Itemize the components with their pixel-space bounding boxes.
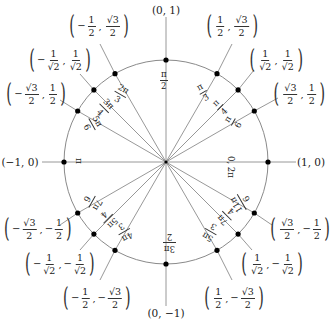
denominator: 2 xyxy=(56,230,62,241)
parenthesis: ( xyxy=(69,12,75,38)
sign: − xyxy=(64,259,72,269)
point-300 xyxy=(214,248,219,253)
numerator: 1 xyxy=(313,218,321,230)
denominator: 2 xyxy=(314,230,320,241)
denominator: 2 xyxy=(284,230,290,241)
denominator: √2 xyxy=(70,61,82,72)
numerator: √3 xyxy=(22,218,36,230)
comma: , xyxy=(297,225,300,235)
numerator: 1 xyxy=(45,253,53,265)
coord-label-300: ( 12 , − √32 ) xyxy=(202,286,266,310)
parenthesis: ( xyxy=(241,250,247,276)
fraction: √32 xyxy=(108,287,122,309)
parenthesis: ) xyxy=(319,80,325,106)
denominator: 2 xyxy=(287,95,293,106)
axis-label-left: (−1, 0) xyxy=(1,156,38,168)
numerator: 1 xyxy=(214,287,222,299)
comma: , xyxy=(58,260,61,270)
point-315 xyxy=(236,232,241,237)
angle-150-den: 6 xyxy=(82,122,93,131)
parenthesis: ( xyxy=(4,215,10,241)
parenthesis: ) xyxy=(60,80,66,106)
sign: − xyxy=(77,21,85,31)
numerator: √3 xyxy=(235,15,249,27)
fraction: 12 xyxy=(81,287,89,309)
fraction: 1√2 xyxy=(251,253,263,275)
sign: − xyxy=(14,89,22,99)
comma: , xyxy=(300,90,303,100)
sign: − xyxy=(271,259,279,269)
axis-label-top: (0, 1) xyxy=(152,4,180,16)
numerator: √3 xyxy=(106,15,120,27)
parenthesis: ( xyxy=(270,215,276,241)
point-225 xyxy=(91,232,96,237)
parenthesis: ) xyxy=(66,215,72,241)
numerator: 1 xyxy=(49,83,57,95)
angle-330-den: 6 xyxy=(240,195,251,204)
coord-label-225: ( − 1√2 , − 1√2 ) xyxy=(23,252,98,276)
denominator: 2 xyxy=(26,230,32,241)
denominator: 2 xyxy=(239,27,245,38)
numerator: 1 xyxy=(284,253,292,265)
point-150 xyxy=(75,108,80,113)
axis-label-right: (1, 0) xyxy=(297,156,325,168)
denominator: √2 xyxy=(251,265,263,276)
angle-label-270: 3π 2 xyxy=(163,233,176,253)
comma: , xyxy=(92,294,95,304)
fraction: √32 xyxy=(235,15,249,37)
point-45 xyxy=(236,87,241,92)
numerator: 1 xyxy=(55,218,63,230)
fraction: 1√2 xyxy=(259,49,271,71)
comma: , xyxy=(63,56,66,66)
point-270 xyxy=(163,261,168,266)
fraction: √32 xyxy=(280,218,294,240)
denominator: 2 xyxy=(82,299,88,310)
point-90 xyxy=(163,57,168,62)
coord-label-240: ( − 12 , − √32 ) xyxy=(61,286,133,310)
fraction: 12 xyxy=(313,218,321,240)
comma: , xyxy=(266,260,269,270)
sign: − xyxy=(33,259,41,269)
denominator: √2 xyxy=(259,61,271,72)
parenthesis: ) xyxy=(85,46,91,72)
angle-label-180: π xyxy=(74,158,84,164)
denominator: 2 xyxy=(110,27,116,38)
fraction: 12 xyxy=(88,15,96,37)
denominator: 2 xyxy=(29,95,35,106)
parenthesis: ( xyxy=(25,250,31,276)
origin-point xyxy=(164,160,167,163)
fraction: 12 xyxy=(216,15,224,37)
sign: − xyxy=(37,55,45,65)
parenthesis: ( xyxy=(29,46,35,72)
denominator: 2 xyxy=(309,95,315,106)
denominator: √2 xyxy=(74,265,86,276)
numerator: 1 xyxy=(81,287,89,299)
denominator: √2 xyxy=(282,61,294,72)
denominator: 2 xyxy=(245,299,251,310)
fraction: √32 xyxy=(22,218,36,240)
point-60 xyxy=(214,71,219,76)
angle-90-den: 2 xyxy=(161,81,166,91)
parenthesis: ( xyxy=(204,284,210,310)
coord-label-30: ( √32 , 12 ) xyxy=(271,82,327,106)
fraction: 1√2 xyxy=(282,49,294,71)
angle-label-90: π 2 xyxy=(160,70,168,90)
coord-label-150: ( − √32 , 12 ) xyxy=(4,82,68,106)
parenthesis: ) xyxy=(252,12,258,38)
numerator: √3 xyxy=(25,83,39,95)
sign: − xyxy=(302,224,310,234)
coord-label-120: ( − 12 , √32 ) xyxy=(67,14,131,38)
fraction: 12 xyxy=(49,83,57,105)
fraction: 1√2 xyxy=(74,253,86,275)
numerator: 1 xyxy=(216,15,224,27)
coord-label-210: ( − √32 , − 12 ) xyxy=(2,217,74,241)
fraction: 12 xyxy=(308,83,316,105)
parenthesis: ) xyxy=(125,284,131,310)
point-180 xyxy=(61,159,66,164)
sign: − xyxy=(98,293,106,303)
fraction: √32 xyxy=(25,83,39,105)
sign: − xyxy=(45,224,53,234)
parenthesis: ( xyxy=(249,46,255,72)
denominator: 2 xyxy=(112,299,118,310)
parenthesis: ( xyxy=(206,12,212,38)
